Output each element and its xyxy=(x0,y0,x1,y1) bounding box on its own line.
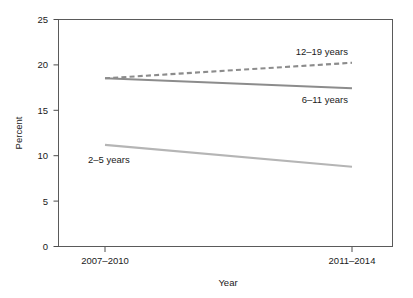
y-tick-label-3: 15 xyxy=(37,105,48,116)
series-label-2-5-years: 2–5 years xyxy=(88,154,130,165)
y-tick-label-2: 10 xyxy=(37,150,48,161)
y-tick-label-5: 25 xyxy=(37,14,48,25)
x-axis-title: Year xyxy=(218,277,237,288)
y-tick-label-1: 5 xyxy=(43,196,48,207)
line-chart-canvas: 0 5 10 15 20 25 Percent xyxy=(0,0,413,298)
y-tick-label-0: 0 xyxy=(43,241,48,252)
series-label-6-11-years: 6–11 years xyxy=(302,94,349,105)
x-tick-label-0: 2007–2010 xyxy=(81,255,129,266)
chart-figure: 0 5 10 15 20 25 Percent xyxy=(0,0,413,298)
series-label-12-19-years: 12–19 years xyxy=(296,46,349,57)
y-tick-label-4: 20 xyxy=(37,59,48,70)
y-axis-title: Percent xyxy=(13,116,24,149)
x-tick-label-1: 2011–2014 xyxy=(329,255,376,266)
chart-background xyxy=(0,0,413,298)
